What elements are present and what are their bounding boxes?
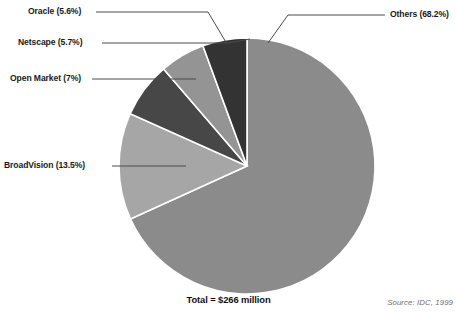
slice-label-oracle: Oracle (5.6%) — [28, 6, 81, 17]
pie-chart-figure: Oracle (5.6%) Netscape (5.7%) Open Marke… — [0, 0, 457, 316]
leader-line-oracle — [96, 12, 227, 44]
leader-line-others — [268, 15, 385, 43]
slice-label-broadvision: BroadVision (13.5%) — [4, 160, 85, 171]
chart-source-note: Source: IDC, 1999 — [387, 298, 453, 307]
slice-label-others: Others (68.2%) — [390, 9, 449, 20]
slice-label-open-market: Open Market (7%) — [10, 73, 81, 84]
slice-label-netscape: Netscape (5.7%) — [18, 37, 82, 48]
